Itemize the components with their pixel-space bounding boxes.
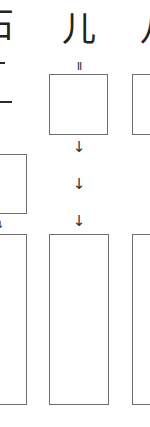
stroke-fragment-long: [0, 101, 12, 103]
stroke-fragment-short: [0, 62, 5, 64]
right-upper-box: [132, 74, 150, 135]
column-heading-right: 八: [140, 12, 150, 46]
left-upper-box: [0, 154, 27, 214]
middle-upper-box: [49, 74, 108, 135]
arrow-down-icon-2: ↓: [69, 177, 89, 192]
right-lower-box: [132, 234, 150, 405]
left-arrow-down-icon: ↓: [0, 217, 10, 232]
middle-lower-box: [49, 234, 109, 405]
arrow-down-icon-3: ↓: [69, 214, 89, 229]
arrow-down-icon-1: ↓: [69, 140, 89, 155]
equals-mark-icon: II: [69, 61, 89, 72]
column-heading-middle: 儿: [62, 12, 96, 46]
column-heading-left: 石: [0, 8, 14, 42]
left-lower-box: [0, 234, 27, 405]
